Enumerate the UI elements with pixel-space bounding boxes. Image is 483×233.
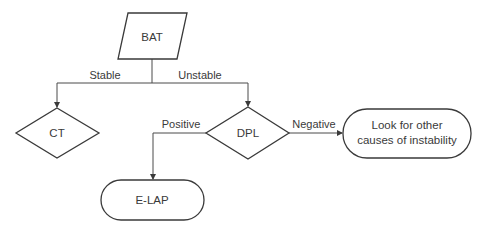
node-bat-label: BAT [141,31,163,43]
flowchart-canvas: Stable Unstable Positive Negative BAT CT… [0,0,483,233]
arrow-to-elap [153,133,206,179]
node-other-label-line2: causes of instability [357,134,457,146]
flowchart-diagram: Stable Unstable Positive Negative BAT CT… [0,0,483,233]
node-elap: E-LAP [101,180,204,220]
node-bat: BAT [118,13,187,59]
edge-label-unstable: Unstable [178,69,221,81]
node-ct-label: CT [49,127,64,139]
node-other-causes: Look for other causes of instability [343,109,471,158]
node-dpl: DPL [206,107,289,159]
edge-label-positive: Positive [162,118,201,130]
node-dpl-label: DPL [237,127,260,139]
edge-label-negative: Negative [292,118,335,130]
node-other-label-line1: Look for other [372,119,443,131]
edge-label-stable: Stable [89,69,120,81]
node-ct: CT [16,108,99,158]
node-elap-label: E-LAP [135,194,169,206]
